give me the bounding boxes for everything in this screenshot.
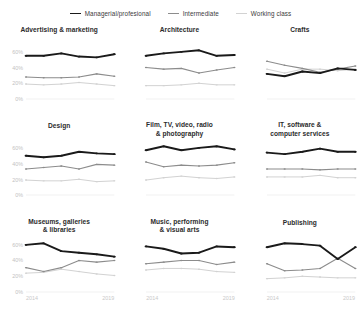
- data-point: [180, 252, 183, 254]
- data-point: [25, 272, 27, 273]
- data-point: [145, 162, 147, 163]
- y-axis-tick-label: 20%: [12, 177, 23, 183]
- data-point: [25, 169, 27, 170]
- data-point: [283, 169, 285, 170]
- data-point: [113, 154, 116, 156]
- data-point: [180, 51, 183, 53]
- data-point: [198, 268, 200, 269]
- data-point: [216, 245, 219, 247]
- x-axis-tick-label-end: 2019: [223, 295, 235, 301]
- plot-svg: [267, 237, 355, 292]
- series-line: [26, 165, 114, 170]
- data-point: [336, 67, 339, 69]
- panel-title-line: & photography: [120, 130, 238, 138]
- data-point: [25, 267, 27, 268]
- data-point: [283, 177, 285, 178]
- y-axis-tick-label: 0%: [15, 192, 23, 198]
- data-point: [301, 68, 303, 69]
- chart-panel: Crafts: [241, 26, 361, 122]
- x-axis-tick-label-end: 2019: [102, 295, 114, 301]
- data-point: [233, 246, 236, 248]
- data-point: [25, 83, 27, 84]
- plot-svg: [26, 140, 114, 195]
- data-point: [145, 263, 147, 264]
- data-point: [43, 77, 45, 78]
- panel-title-line: Architecture: [120, 26, 238, 34]
- plot-svg: [267, 44, 355, 99]
- data-point: [113, 53, 116, 55]
- legend-line-icon: [70, 13, 81, 14]
- data-point: [266, 263, 268, 264]
- data-point: [198, 260, 200, 261]
- legend-item: Working class: [236, 10, 291, 17]
- data-point: [181, 176, 183, 177]
- y-axis-tick-label: 60%: [12, 145, 23, 151]
- series-line: [146, 176, 234, 180]
- data-point: [216, 165, 218, 166]
- chart-legend: Managerial/profesionalIntermediateWorkin…: [0, 10, 361, 17]
- data-point: [234, 162, 236, 163]
- data-point: [266, 177, 268, 178]
- data-point: [163, 68, 165, 69]
- panel-title-line: Design: [0, 122, 118, 130]
- data-point: [318, 244, 321, 246]
- data-point: [283, 75, 286, 77]
- series-line: [146, 68, 234, 74]
- data-point: [78, 260, 80, 261]
- data-point: [113, 260, 115, 261]
- data-point: [266, 278, 268, 279]
- chart-panel: Architecture: [120, 26, 240, 122]
- data-point: [163, 248, 166, 250]
- legend-item: Intermediate: [168, 10, 219, 17]
- plot-svg: [146, 44, 234, 99]
- data-point: [95, 153, 98, 155]
- data-point: [283, 72, 285, 73]
- data-point: [216, 178, 218, 179]
- panel-title: Advertising & marketing: [0, 26, 118, 34]
- data-point: [198, 49, 201, 51]
- data-point: [234, 67, 236, 68]
- data-point: [283, 64, 285, 65]
- data-point: [283, 270, 285, 271]
- data-point: [336, 151, 339, 153]
- data-point: [354, 267, 356, 268]
- data-point: [318, 148, 321, 150]
- plot-area: 60%40%20%0%20142019: [26, 237, 114, 292]
- data-point: [181, 165, 183, 166]
- plot-svg: [26, 44, 114, 99]
- data-point: [216, 263, 218, 264]
- data-point: [301, 275, 303, 276]
- series-line: [146, 147, 234, 151]
- data-point: [113, 165, 115, 166]
- panel-title-line: Publishing: [241, 219, 359, 227]
- data-point: [145, 245, 148, 247]
- small-multiples-chart: Managerial/profesionalIntermediateWorkin…: [0, 0, 361, 315]
- data-point: [145, 85, 147, 86]
- data-point: [354, 151, 357, 153]
- data-point: [198, 147, 201, 149]
- data-point: [216, 69, 218, 70]
- data-point: [336, 169, 338, 170]
- data-point: [181, 267, 183, 268]
- data-point: [42, 157, 45, 159]
- data-point: [60, 250, 63, 252]
- data-point: [216, 146, 219, 148]
- data-point: [354, 246, 357, 248]
- data-point: [43, 167, 45, 168]
- chart-panel: Film, TV, video, radio& photography: [120, 122, 240, 218]
- series-line: [146, 260, 234, 264]
- panel-title: Music, performing& visual arts: [120, 218, 238, 234]
- data-point: [181, 68, 183, 69]
- data-point: [265, 73, 268, 75]
- data-point: [234, 84, 236, 85]
- data-point: [96, 273, 98, 274]
- data-point: [336, 258, 339, 260]
- data-point: [318, 72, 321, 74]
- panel-title-line: Museums, galleries: [0, 218, 118, 226]
- chart-panel: Publishing20142019: [241, 219, 361, 315]
- data-point: [96, 73, 98, 74]
- plot-area: 20142019: [146, 237, 234, 292]
- data-point: [234, 271, 236, 272]
- data-point: [301, 177, 303, 178]
- data-point: [180, 150, 183, 152]
